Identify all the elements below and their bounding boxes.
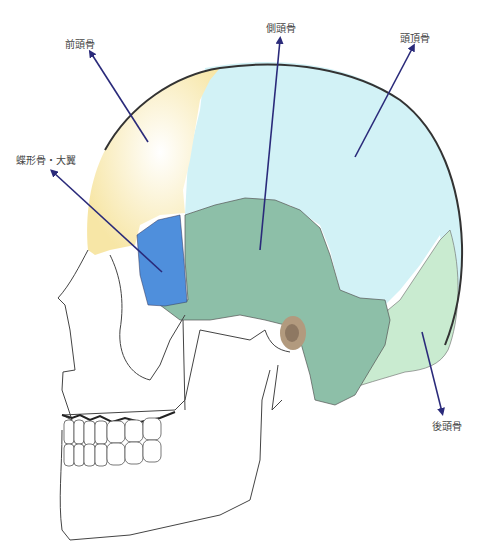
label-occipital-bone: 後頭骨 <box>432 418 462 433</box>
sphenoid-bone <box>137 215 187 306</box>
teeth <box>62 412 175 466</box>
label-temporal-bone: 側頭骨 <box>266 20 296 35</box>
label-parietal-bone: 頭頂骨 <box>400 30 430 45</box>
label-frontal-bone: 前頭骨 <box>65 36 95 51</box>
label-sphenoid-greater-wing: 蝶形骨・大翼 <box>16 152 76 167</box>
skull-diagram: 前頭骨 側頭骨 頭頂骨 蝶形骨・大翼 後頭骨 <box>0 0 485 559</box>
skull-illustration <box>0 0 485 559</box>
